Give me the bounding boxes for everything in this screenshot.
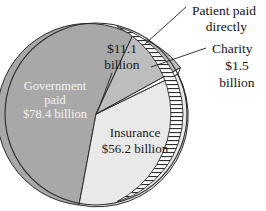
- government-line-1: Government: [24, 79, 87, 93]
- leader-line-patient: [145, 7, 186, 44]
- inner-label-patient-value: $11.1 billion: [104, 41, 140, 72]
- callout-patient-paid-directly: Patient paid directly: [192, 3, 256, 34]
- pie-chart-svg: $11.1 billion Government paid $78.4 bill…: [0, 0, 266, 211]
- government-line-2: paid: [44, 93, 66, 107]
- inner-label-insurance: Insurance $56.2 billion: [102, 125, 169, 156]
- callout-charity-line-1: Charity: [212, 41, 253, 56]
- patient-value-line-2: billion: [104, 57, 140, 72]
- pie-chart-figure: $11.1 billion Government paid $78.4 bill…: [0, 0, 266, 211]
- callout-charity: Charity $1.5 billion: [212, 41, 255, 90]
- callout-charity-line-2: $1.5: [225, 58, 249, 73]
- callout-patient-line-2: directly: [206, 19, 247, 34]
- insurance-line-1: Insurance: [110, 125, 161, 140]
- callout-patient-line-1: Patient paid: [192, 3, 256, 18]
- insurance-line-2: $56.2 billion: [102, 141, 169, 156]
- patient-value-line-1: $11.1: [107, 41, 137, 56]
- callout-charity-line-3: billion: [219, 75, 255, 90]
- government-line-3: $78.4 billion: [23, 107, 88, 121]
